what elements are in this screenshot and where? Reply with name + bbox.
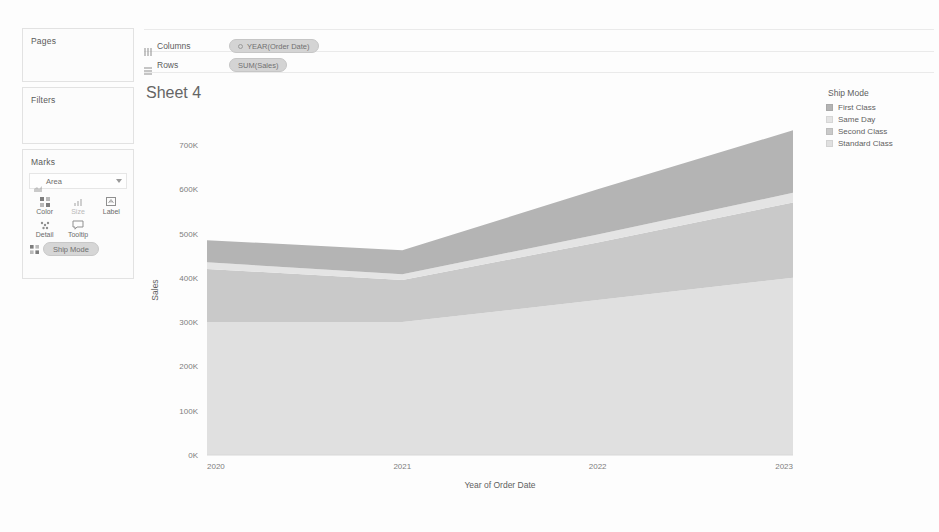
columns-shelf-label: Columns [157, 41, 229, 51]
label-icon [104, 196, 118, 207]
y-tick-label: 500K [179, 230, 198, 239]
rows-shelf[interactable]: Rows SUM(Sales) [144, 56, 287, 74]
shelf-divider-top [144, 29, 934, 30]
columns-pill-label: YEAR(Order Date) [247, 42, 310, 51]
columns-shelf-icon [144, 42, 152, 50]
y-axis-ticks: 0K100K200K300K400K500K600K700K [179, 141, 198, 460]
tableau-worksheet: Pages Filters Marks Area [0, 0, 939, 532]
rows-shelf-icon [144, 61, 152, 69]
size-button-label: Size [71, 208, 85, 215]
color-icon [38, 196, 52, 207]
y-tick-label: 200K [179, 362, 198, 371]
date-pill-icon [238, 44, 243, 49]
pages-card[interactable]: Pages [22, 28, 134, 82]
legend-item-second-class[interactable]: Second Class [826, 127, 930, 136]
worksheet-title: Sheet 4 [146, 84, 201, 102]
marks-pill-ship-mode[interactable]: Ship Mode [43, 242, 99, 256]
rows-shelf-label: Rows [157, 60, 229, 70]
tooltip-icon [71, 219, 85, 230]
detail-button-label: Detail [36, 231, 54, 238]
legend-label-standard-class: Standard Class [838, 139, 893, 148]
y-axis-title: Sales [150, 279, 160, 300]
label-button-label: Label [103, 208, 120, 215]
mark-type-dropdown[interactable]: Area [29, 173, 127, 189]
x-axis-title: Year of Order Date [464, 480, 535, 490]
detail-icon [38, 219, 52, 230]
y-tick-label: 400K [179, 274, 198, 283]
chevron-down-icon[interactable] [116, 178, 122, 184]
tooltip-button[interactable]: Tooltip [61, 217, 94, 238]
y-tick-label: 300K [179, 318, 198, 327]
legend-label-second-class: Second Class [838, 127, 887, 136]
rows-pill-sum-sales[interactable]: SUM(Sales) [229, 58, 287, 72]
legend-swatch-same-day [826, 116, 833, 123]
y-tick-label: 600K [179, 185, 198, 194]
rows-pill-label: SUM(Sales) [238, 61, 278, 70]
columns-pill-year-order-date[interactable]: YEAR(Order Date) [229, 39, 319, 53]
legend-label-first-class: First Class [838, 103, 876, 112]
label-button[interactable]: Label [95, 194, 128, 215]
x-tick-label[interactable]: 2023 [775, 462, 793, 471]
filters-card-title: Filters [23, 88, 133, 111]
chart-area-bands[interactable] [207, 130, 793, 455]
x-tick-label[interactable]: 2021 [393, 462, 411, 471]
columns-shelf[interactable]: Columns YEAR(Order Date) [144, 37, 319, 55]
legend-swatch-first-class [826, 104, 833, 111]
detail-button[interactable]: Detail [28, 217, 61, 238]
area-chart-svg[interactable]: 0K100K200K300K400K500K600K700K 202020212… [140, 105, 820, 505]
marks-buttons-row-2: Detail Tooltip [23, 217, 133, 238]
x-axis-ticks: 2020202120222023 [207, 462, 794, 471]
filters-card[interactable]: Filters [22, 87, 134, 144]
color-button-label: Color [36, 208, 53, 215]
marks-card[interactable]: Marks Area [22, 149, 134, 279]
size-button[interactable]: Size [61, 194, 94, 215]
legend-item-standard-class[interactable]: Standard Class [826, 139, 930, 148]
area-mark-icon [34, 178, 42, 185]
marks-pill-row: Ship Mode [23, 240, 133, 256]
legend-item-first-class[interactable]: First Class [826, 103, 930, 112]
legend-title: Ship Mode [826, 88, 930, 98]
size-icon [71, 196, 85, 207]
mark-type-label: Area [46, 177, 116, 186]
legend-item-same-day[interactable]: Same Day [826, 115, 930, 124]
x-tick-label[interactable]: 2022 [589, 462, 607, 471]
area-chart[interactable]: 0K100K200K300K400K500K600K700K 202020212… [140, 105, 820, 505]
y-tick-label: 700K [179, 141, 198, 150]
legend-swatch-second-class [826, 128, 833, 135]
y-tick-label: 100K [179, 407, 198, 416]
x-tick-label[interactable]: 2020 [207, 462, 225, 471]
color-icon [30, 245, 39, 254]
color-button[interactable]: Color [28, 194, 61, 215]
marks-sidebar: Pages Filters Marks Area [22, 28, 134, 286]
pages-card-title: Pages [23, 29, 133, 52]
legend-swatch-standard-class [826, 140, 833, 147]
marks-buttons-row-1: Color Size [23, 194, 133, 215]
color-legend: Ship Mode First Class Same Day Second Cl… [826, 88, 930, 151]
marks-spacer [95, 217, 128, 238]
marks-card-title: Marks [23, 150, 133, 173]
legend-label-same-day: Same Day [838, 115, 875, 124]
tooltip-button-label: Tooltip [68, 231, 88, 238]
y-tick-label: 0K [188, 451, 198, 460]
